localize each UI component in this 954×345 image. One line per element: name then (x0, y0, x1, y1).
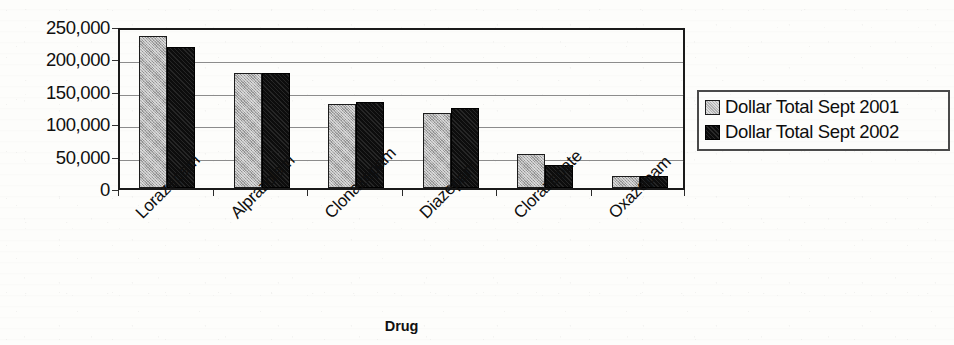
bar-chart-figure: Dollar Total (Thousands) 250,000200,0001… (0, 0, 954, 345)
x-axis-category-label: Oxazepam (605, 152, 676, 223)
legend-swatch-series-2-icon (705, 125, 720, 140)
x-axis-category-label: Clorazepate (510, 146, 587, 223)
x-axis-category-label: Diazepam (416, 156, 483, 223)
x-axis-category-label: Lorazepam (132, 151, 204, 223)
legend-item: Dollar Total Sept 2001 (705, 95, 943, 120)
legend-item: Dollar Total Sept 2002 (705, 120, 943, 145)
legend-label-series-2: Dollar Total Sept 2002 (725, 123, 899, 142)
x-axis-category-label: Clonazepam (321, 143, 401, 223)
x-axis-category-label: Alprazolam (227, 151, 299, 223)
chart-legend: Dollar Total Sept 2001 Dollar Total Sept… (697, 90, 950, 151)
legend-label-series-1: Dollar Total Sept 2001 (725, 98, 899, 117)
legend-swatch-series-1-icon (705, 100, 720, 115)
x-axis-title: Drug (118, 318, 685, 334)
x-axis-category-labels: LorazepamAlprazolamClonazepamDiazepamClo… (0, 0, 954, 345)
